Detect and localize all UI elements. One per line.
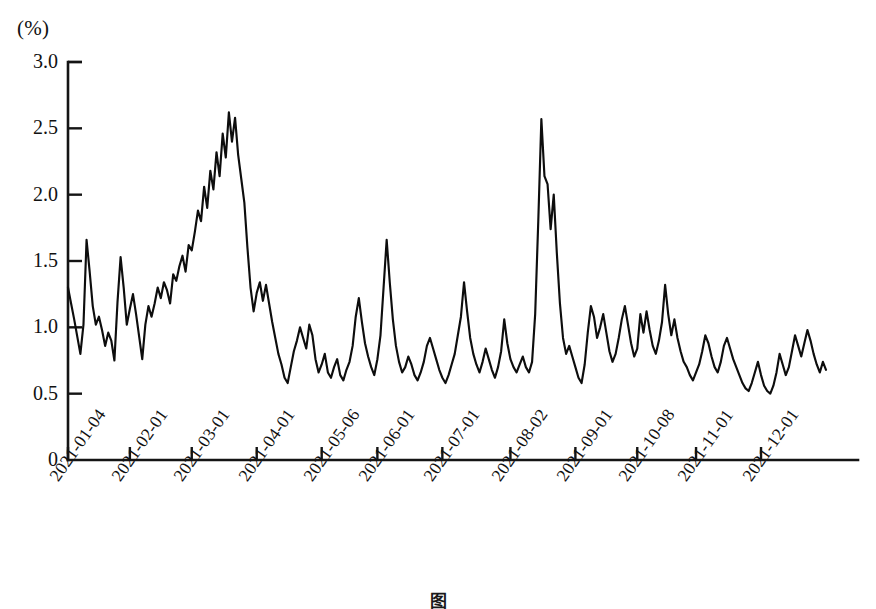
y-tick-label: 1.0 xyxy=(12,316,58,336)
y-tick-label: 3.0 xyxy=(12,51,58,71)
y-tick-label: 1.5 xyxy=(12,250,58,270)
y-tick-label: 0.5 xyxy=(12,383,58,403)
y-tick-label: 2.0 xyxy=(12,184,58,204)
rate-line-series xyxy=(68,112,826,393)
figure-caption: 图 xyxy=(0,592,876,609)
x-axis-ticks xyxy=(68,447,761,460)
data-series-group xyxy=(68,112,826,393)
y-axis-ticks xyxy=(68,62,82,394)
y-tick-label: 2.5 xyxy=(12,117,58,137)
figure-container: (%) 00.51.01.52.02.53.0 2021-01-042021-0… xyxy=(0,0,876,609)
line-chart-plot xyxy=(0,0,876,609)
